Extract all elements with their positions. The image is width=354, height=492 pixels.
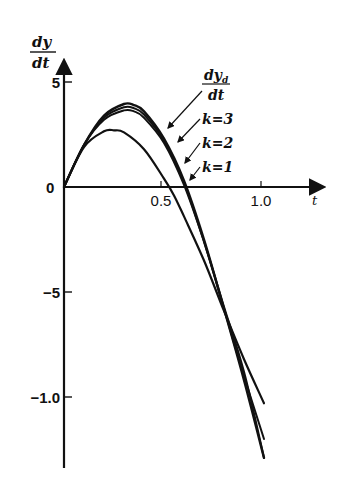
svg-text:dyd: dyd bbox=[204, 67, 229, 85]
y-axis-label: dy dt bbox=[30, 33, 56, 72]
k2-label: k=2 bbox=[202, 135, 233, 151]
legend-annotations: dyd dt k=3 k=2 k=1 bbox=[168, 67, 233, 180]
y-tick-label: 0 bbox=[46, 179, 54, 196]
curve-dy-d-dt bbox=[64, 103, 264, 458]
x-tick-label: 1.0 bbox=[251, 192, 272, 209]
dyd-denominator: dt bbox=[208, 87, 225, 103]
y-tick-label: 5 bbox=[52, 74, 60, 91]
curve-k-1 bbox=[64, 130, 264, 404]
y-label-denominator: dt bbox=[32, 54, 49, 72]
y-ticks: 50−5−1.0 bbox=[30, 74, 72, 406]
x-tick-label: 0.5 bbox=[151, 192, 172, 209]
dyd-numerator: dy bbox=[204, 67, 223, 83]
chart: dy dt t 50−5−1.0 0.51.0 dyd dt k=3 k=2 k… bbox=[0, 0, 354, 492]
k1-label: k=1 bbox=[202, 159, 233, 175]
curve-k-3 bbox=[64, 106, 264, 439]
y-tick-label: −1.0 bbox=[30, 389, 60, 406]
y-label-numerator: dy bbox=[32, 33, 52, 51]
k3-label: k=3 bbox=[202, 111, 233, 127]
curve-k-2 bbox=[64, 110, 264, 458]
y-tick-label: −5 bbox=[43, 284, 60, 301]
x-axis-label: t bbox=[312, 193, 318, 208]
curves bbox=[64, 103, 264, 458]
annotation-k1: k=1 bbox=[190, 159, 233, 180]
